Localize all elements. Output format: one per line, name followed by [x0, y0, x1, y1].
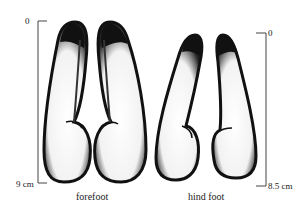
hindfoot-right-toe: [213, 35, 256, 178]
hindfoot-scale-bar: [256, 33, 266, 186]
hindfoot-scale-bottom-label: 8.5 cm: [268, 181, 293, 191]
forefoot-left-toe: [44, 22, 90, 182]
hindfoot-left-toe: [156, 35, 202, 180]
hindfoot-caption: hind foot: [188, 191, 224, 202]
forefoot-scale-bottom-label: 9 cm: [16, 179, 34, 189]
forefoot-scale-top-label: 0: [25, 16, 30, 26]
forefoot-caption: forefoot: [76, 191, 108, 202]
hoofprint-illustration: [0, 0, 304, 209]
hindfoot-scale-top-label: 0: [268, 28, 273, 38]
forefoot-right-toe: [95, 22, 146, 182]
